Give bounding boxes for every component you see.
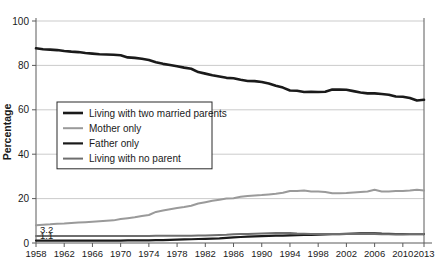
y-tick-label-20: 20 [18,193,30,204]
x-tick-label-1986: 1986 [223,248,244,259]
y-axis-title-group: Percentage [1,104,13,161]
y-axis-title: Percentage [1,104,13,161]
y-tick-label-40: 40 [18,149,30,160]
x-tick-label-1978: 1978 [167,248,188,259]
series-line-0 [36,48,424,100]
y-tick-label-0: 0 [23,238,29,249]
x-tick-label-1958: 1958 [25,248,46,259]
series-line-1 [36,190,424,226]
x-tick-label-1962: 1962 [54,248,75,259]
x-tick-label-1998: 1998 [308,248,329,259]
y-tick-labels-group: 020406080100 [12,16,29,249]
x-tick-label-2006: 2006 [364,248,385,259]
y-tick-label-100: 100 [12,16,29,27]
legend-label-3[interactable]: Living with no parent [89,153,181,164]
x-tick-label-1994: 1994 [279,248,300,259]
legend-group[interactable]: Living with two married parentsMother on… [57,102,227,169]
x-tick-label-1966: 1966 [82,248,103,259]
line-chart-svg: 020406080100 195819621966197019741978198… [0,0,439,271]
legend-label-2[interactable]: Father only [89,138,139,149]
y-tick-label-80: 80 [18,60,30,71]
series-line-3 [36,233,424,236]
annotation-1: 1.1 [40,230,53,241]
x-tick-label-2013: 2013 [413,248,434,259]
x-tick-label-1990: 1990 [251,248,272,259]
x-tick-labels-group: 1958196219661970197419781982198619901994… [25,248,434,259]
x-tick-label-1974: 1974 [138,248,159,259]
annotations-group: 3.21.1 [40,224,53,241]
y-tick-label-60: 60 [18,104,30,115]
legend-label-1[interactable]: Mother only [89,123,141,134]
x-tick-label-2010: 2010 [392,248,413,259]
x-tick-label-2002: 2002 [336,248,357,259]
legend-label-0[interactable]: Living with two married parents [89,108,227,119]
x-tick-label-1970: 1970 [110,248,131,259]
chart-container: 020406080100 195819621966197019741978198… [0,0,439,271]
x-tick-label-1982: 1982 [195,248,216,259]
